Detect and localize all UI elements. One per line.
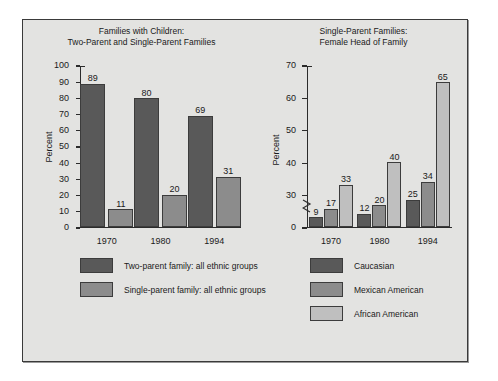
bar-value-label: 20 [374, 195, 384, 205]
y-tick: 0 [302, 227, 307, 228]
y-tick-label: 70 [286, 60, 296, 70]
y-tick-label: 90 [59, 77, 69, 87]
bar: 65 [436, 82, 450, 227]
bar: 25 [406, 200, 420, 227]
legend-label: Two-parent family: all ethnic groups [124, 261, 258, 271]
bar: 40 [387, 162, 401, 226]
chart-single-parent-female-head: Single-Parent Families: Female Head of F… [260, 20, 467, 252]
legend-right: CaucasianMexican AmericanAfrican America… [261, 258, 467, 362]
bar-value-label: 69 [195, 105, 205, 115]
bar: 20 [372, 205, 386, 226]
legend-swatch [80, 258, 113, 273]
bar: 9 [309, 217, 323, 227]
legend-swatch [310, 282, 343, 297]
x-tick-label: 1994 [418, 236, 438, 246]
legends-row: Two-parent family: all ethnic groupsSing… [23, 258, 467, 362]
legend-swatch [80, 282, 113, 297]
bar: 89 [80, 84, 105, 227]
legend-label: Single-parent family: all ethnic groups [124, 285, 266, 295]
bar-value-label: 65 [438, 72, 448, 82]
legend-swatch [310, 306, 343, 321]
y-tick-label: 80 [59, 93, 69, 103]
legend-item: Caucasian [310, 258, 467, 273]
plot-area-right: Percent 03040506070 91733197012204019802… [307, 66, 452, 228]
chart-title-left: Families with Children: Two-Parent and S… [23, 26, 260, 48]
legend-item: African American [310, 306, 467, 321]
y-tick-label: 0 [64, 222, 69, 232]
x-tick-label: 1970 [97, 236, 117, 246]
bar-group: 89111970 [80, 66, 134, 227]
bar-group: 1220401980 [355, 66, 403, 227]
bar-value-label: 17 [326, 198, 336, 208]
bar-value-label: 80 [141, 88, 151, 98]
legend-label: Mexican American [354, 285, 423, 295]
bar-value-label: 34 [423, 171, 433, 181]
legend-left: Two-parent family: all ethnic groupsSing… [23, 258, 261, 362]
bar-group: 80201980 [134, 66, 188, 227]
y-tick-label: 100 [54, 60, 69, 70]
bar: 12 [357, 214, 371, 227]
bar: 17 [324, 209, 338, 227]
y-tick: 0 [76, 227, 81, 228]
y-tick-label: 40 [286, 158, 296, 168]
bar: 69 [188, 116, 213, 227]
bar: 80 [134, 98, 159, 227]
bar-groups-right: 91733197012204019802534651994 [307, 66, 452, 227]
x-tick-label: 1980 [150, 236, 170, 246]
bar: 33 [339, 185, 353, 227]
bar-value-label: 9 [314, 207, 319, 217]
y-tick-label: 60 [59, 125, 69, 135]
bar: 31 [216, 177, 241, 227]
bar: 34 [421, 182, 435, 227]
bar-value-label: 40 [389, 152, 399, 162]
bar-value-label: 25 [408, 189, 418, 199]
y-axis-label-right: Percent [270, 135, 280, 166]
legend-swatch [310, 258, 343, 273]
y-tick-label: 10 [59, 206, 69, 216]
bar: 11 [108, 209, 133, 227]
x-axis-right [307, 227, 452, 228]
y-tick-label: 60 [286, 93, 296, 103]
bar-group: 2534651994 [404, 66, 452, 227]
legend-label: African American [354, 309, 418, 319]
bar-group: 917331970 [307, 66, 355, 227]
y-tick-label: 40 [59, 158, 69, 168]
figure-panel: Families with Children: Two-Parent and S… [22, 19, 468, 362]
legend-item: Two-parent family: all ethnic groups [80, 258, 261, 273]
y-tick-label: 0 [291, 222, 296, 232]
legend-label: Caucasian [354, 261, 394, 271]
legend-item: Single-parent family: all ethnic groups [80, 282, 261, 297]
y-tick-label: 20 [59, 190, 69, 200]
bar-value-label: 20 [169, 184, 179, 194]
x-tick-label: 1980 [369, 236, 389, 246]
y-tick-label: 30 [59, 174, 69, 184]
plot-area-left: Percent 0102030405060708090100 891119708… [80, 66, 241, 228]
bar-value-label: 31 [223, 166, 233, 176]
bar: 20 [162, 195, 187, 227]
bar-value-label: 33 [341, 174, 351, 184]
chart-title-right: Single-Parent Families: Female Head of F… [260, 26, 467, 48]
chart-families-with-children: Families with Children: Two-Parent and S… [23, 20, 260, 252]
bar-value-label: 12 [359, 203, 369, 213]
bar-group: 69311994 [187, 66, 241, 227]
legend-item: Mexican American [310, 282, 467, 297]
charts-row: Families with Children: Two-Parent and S… [23, 20, 467, 252]
y-axis-label-left: Percent [44, 131, 54, 162]
screenshot-root: Families with Children: Two-Parent and S… [0, 0, 498, 381]
bar-groups-left: 891119708020198069311994 [80, 66, 241, 227]
bar-value-label: 11 [116, 199, 125, 209]
y-tick-label: 70 [59, 109, 69, 119]
y-tick-label: 50 [59, 141, 69, 151]
y-tick-label: 30 [286, 190, 296, 200]
x-tick-label: 1994 [204, 236, 224, 246]
x-tick-label: 1970 [321, 236, 341, 246]
y-tick-label: 50 [286, 125, 296, 135]
x-axis-left [80, 227, 241, 228]
bar-value-label: 89 [88, 73, 98, 83]
